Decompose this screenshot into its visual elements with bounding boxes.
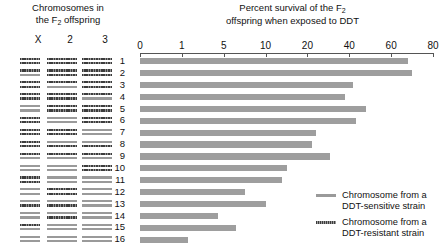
legend: Chromosome from aDDT-sensitive strainChr… — [316, 190, 443, 244]
survival-bar — [140, 225, 236, 231]
chart-title-line2: offspring when exposed to DDT — [226, 15, 359, 26]
bar-row — [0, 56, 443, 68]
x-axis-tick-label: 1 — [179, 40, 185, 51]
x-axis-tick-label: 80 — [427, 40, 438, 51]
survival-bar — [140, 58, 408, 64]
karyotype-title-line2-post: offspring — [61, 14, 100, 25]
survival-bar — [140, 201, 266, 207]
bar-row — [0, 115, 443, 127]
survival-bar — [140, 177, 282, 183]
bar-row — [0, 139, 443, 151]
legend-label-line1: Chromosome from a — [342, 190, 427, 200]
x-axis-tick-label: 0 — [137, 40, 143, 51]
x-axis-tick-label: 5 — [221, 40, 227, 51]
bar-row — [0, 151, 443, 163]
survival-bar — [140, 213, 218, 219]
legend-item: Chromosome from aDDT-resistant strain — [316, 217, 443, 239]
survival-bar — [140, 70, 412, 76]
figure-root: Chromosomes in the F2 offspring X23 1234… — [0, 0, 443, 252]
legend-label-line2: DDT-sensitive strain — [342, 201, 425, 211]
legend-label-line1: Chromosome from a — [342, 217, 427, 227]
survival-bar — [140, 82, 353, 88]
bar-row — [0, 92, 443, 104]
chart-title-line1-pre: Percent survival of the F — [239, 2, 341, 13]
bar-row — [0, 127, 443, 139]
x-axis-tick-label: 40 — [344, 40, 355, 51]
x-axis-tick-label: 20 — [302, 40, 313, 51]
karyotype-title-line1: Chromosomes in — [32, 2, 104, 13]
x-axis-tick-label: 60 — [386, 40, 397, 51]
karyotype-title-line2-pre: the F — [36, 14, 58, 25]
legend-swatch-dark — [316, 221, 336, 224]
bar-row — [0, 163, 443, 175]
karyotype-panel-title: Chromosomes in the F2 offspring — [8, 2, 128, 26]
survival-bar — [140, 237, 188, 243]
x-axis-tick-label: 10 — [260, 40, 271, 51]
bar-row — [0, 104, 443, 116]
chart-title-subscript: 2 — [342, 7, 346, 14]
survival-bar — [140, 118, 356, 124]
legend-swatch-light — [316, 194, 336, 197]
survival-bar — [140, 130, 316, 136]
legend-item: Chromosome from aDDT-sensitive strain — [316, 190, 443, 212]
bar-row — [0, 68, 443, 80]
legend-label-line2: DDT-resistant strain — [342, 228, 424, 238]
bar-row — [0, 175, 443, 187]
karyotype-title-subscript: 2 — [57, 19, 61, 26]
chart-title: Percent survival of the F2 offspring whe… — [150, 2, 435, 26]
bar-row — [0, 80, 443, 92]
survival-bar — [140, 189, 245, 195]
survival-bar — [140, 141, 312, 147]
survival-bar — [140, 153, 330, 159]
survival-bar — [140, 94, 345, 100]
survival-bar — [140, 165, 287, 171]
survival-bar — [140, 106, 366, 112]
x-axis-line — [140, 53, 434, 54]
